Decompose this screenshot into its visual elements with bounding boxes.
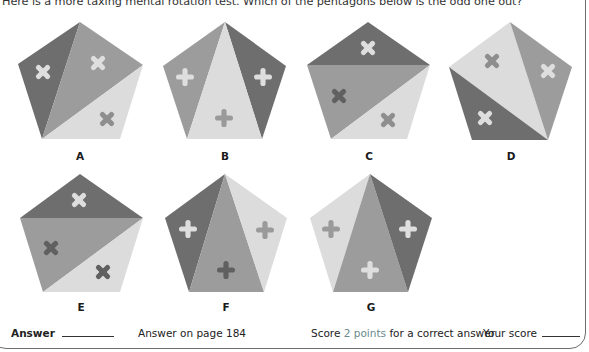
score-info: Score 2 points for a correct answer xyxy=(311,327,495,339)
score-suffix: for a correct answer xyxy=(389,327,495,339)
pentagon-b[interactable] xyxy=(163,22,286,139)
your-score-blank-line[interactable] xyxy=(542,335,580,337)
answer-blank-line[interactable] xyxy=(62,335,114,337)
pentagon-a[interactable] xyxy=(18,22,143,139)
option-label-g: G xyxy=(367,301,376,313)
pentagon-figures xyxy=(0,0,589,352)
option-label-b: B xyxy=(221,150,229,162)
pentagon-d[interactable] xyxy=(449,22,572,140)
pentagon-c[interactable] xyxy=(307,22,430,139)
answer-label: Answer xyxy=(11,327,55,339)
answer-reference: Answer on page 184 xyxy=(138,327,246,339)
option-label-c: C xyxy=(365,150,373,162)
pentagon-f[interactable] xyxy=(165,174,287,292)
pentagon-e[interactable] xyxy=(20,174,143,292)
pentagon-g[interactable] xyxy=(310,174,432,292)
score-prefix: Score xyxy=(311,327,340,339)
your-score-label: Your score xyxy=(483,327,537,339)
option-label-f: F xyxy=(222,301,229,313)
option-label-a: A xyxy=(76,150,84,162)
your-score-field[interactable]: Your score xyxy=(483,327,580,339)
option-label-e: E xyxy=(77,301,84,313)
answer-field[interactable]: Answer xyxy=(11,327,114,339)
score-points: 2 points xyxy=(344,327,386,339)
option-label-d: D xyxy=(507,150,516,162)
